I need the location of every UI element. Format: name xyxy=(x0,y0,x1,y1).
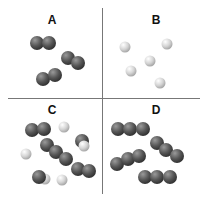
dark-atom-icon xyxy=(138,170,152,184)
light-atom-icon xyxy=(162,39,173,50)
particle-diagram xyxy=(0,0,206,199)
dark-atom-icon xyxy=(59,152,73,166)
light-atom-icon xyxy=(59,122,70,133)
light-atom-icon xyxy=(126,66,137,77)
dark-atom-icon xyxy=(32,170,46,184)
light-atom-icon xyxy=(145,56,156,67)
dark-atom-icon xyxy=(170,149,184,163)
dark-atom-icon xyxy=(71,56,85,70)
light-atom-icon xyxy=(120,42,131,53)
dark-atom-icon xyxy=(150,170,164,184)
dark-atom-icon xyxy=(25,123,39,137)
light-atom-icon xyxy=(57,175,68,186)
light-atom-icon xyxy=(79,141,90,152)
dark-atom-icon xyxy=(48,68,62,82)
dark-atom-icon xyxy=(136,122,150,136)
dark-atom-icon xyxy=(123,122,137,136)
dark-atom-icon xyxy=(42,36,56,50)
dark-atom-icon xyxy=(36,72,50,86)
dark-atom-icon xyxy=(30,36,44,50)
dark-atom-icon xyxy=(163,170,177,184)
dark-atom-icon xyxy=(111,122,125,136)
dark-atom-icon xyxy=(132,149,146,163)
light-atom-icon xyxy=(21,149,32,160)
light-atom-icon xyxy=(155,78,166,89)
dark-atom-icon xyxy=(37,122,51,136)
dark-atom-icon xyxy=(82,164,96,178)
